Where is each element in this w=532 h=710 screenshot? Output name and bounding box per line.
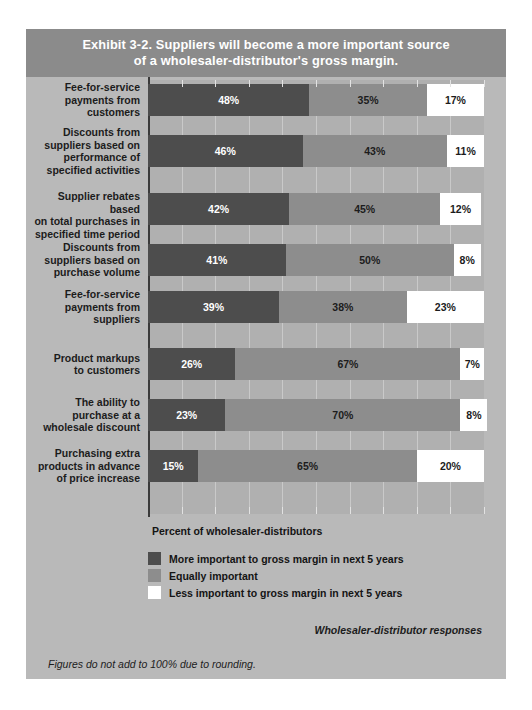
axis-tick-70 [383,507,384,514]
category-label-line: suppliers based on [28,254,140,267]
axis-tick-20 [215,80,216,87]
category-label-line: suppliers based on [28,139,140,152]
category-label-line: payments from [28,301,140,314]
axis-tick-10 [182,507,183,514]
category-label-line: Product markups [28,352,140,365]
bar-row: 23%70%8% [148,399,484,431]
bar-row: 26%67%7% [148,348,484,380]
axis-tick-30 [249,507,250,514]
bar-segment-less: 8% [460,399,487,431]
bar-segment-value: 17% [445,94,466,106]
bar-segment-more: 42% [148,193,289,225]
x-axis-caption: Percent of wholesaler-distributors [152,525,322,537]
axis-tick-50 [316,507,317,514]
axis-tick-20 [215,507,216,514]
bar-segment-value: 15% [163,460,184,472]
category-label-line: wholesale discount [28,421,140,434]
category-label: Discounts fromsuppliers based onpurchase… [28,241,140,279]
bar-segment-value: 8% [466,409,481,421]
bar-segment-less: 23% [407,291,484,323]
bar-segment-less: 17% [427,84,484,116]
bar-segment-less: 7% [460,348,484,380]
legend-swatch-equal [148,569,161,582]
category-label-line: purchase volume [28,266,140,279]
bar-row: 48%35%17% [148,84,484,116]
category-label-line: Discounts from [28,241,140,254]
bar-segment-more: 48% [148,84,309,116]
category-label-line: Fee-for-service [28,81,140,94]
axis-tick-50 [316,80,317,87]
axis-tick-80 [417,507,418,514]
bar-segment-less: 11% [447,135,484,167]
category-label-line: Purchasing extra [28,447,140,460]
category-label-line: performance of [28,151,140,164]
chart-legend: More important to gross margin in next 5… [148,551,506,602]
category-label-line: products in advance [28,460,140,473]
axis-tick-40 [282,507,283,514]
category-label: Supplier rebates basedon total purchases… [28,190,140,240]
bar-segment-value: 43% [364,145,385,157]
axis-tick-30 [249,80,250,87]
category-label-line: The ability to [28,396,140,409]
bar-row: 41%50%8% [148,244,484,276]
legend-label-less: Less important to gross margin in next 5… [169,587,402,599]
bar-segment-value: 65% [297,460,318,472]
bar-segment-equal: 65% [198,450,416,482]
bar-segment-less: 8% [454,244,481,276]
bar-segment-less: 12% [440,193,480,225]
axis-tick-100 [484,507,485,514]
axis-tick-80 [417,80,418,87]
category-label-line: Fee-for-service [28,288,140,301]
bar-row: 39%38%23% [148,291,484,323]
bar-segment-more: 41% [148,244,286,276]
category-label: Discounts fromsuppliers based onperforma… [28,126,140,176]
axis-tick-60 [350,507,351,514]
bar-segment-value: 12% [450,203,471,215]
category-label-line: Discounts from [28,126,140,139]
legend-item-more: More important to gross margin in next 5… [148,551,506,566]
bar-segment-value: 11% [455,145,475,157]
footnote: Figures do not add to 100% due to roundi… [48,658,256,670]
bar-rows: 48%35%17%46%43%11%42%45%12%41%50%8%39%38… [148,77,484,517]
bar-segment-more: 15% [148,450,198,482]
bar-segment-equal: 70% [225,399,460,431]
bar-segment-value: 46% [215,145,236,157]
category-label: Fee-for-servicepayments fromcustomers [28,81,140,119]
category-label-line: specified time period [28,228,140,241]
exhibit-card: Exhibit 3-2. Suppliers will become a mor… [26,29,506,679]
category-label-line: customers [28,106,140,119]
source-note: Wholesaler-distributor responses [315,624,482,636]
legend-swatch-less [148,586,161,599]
bar-row: 15%65%20% [148,450,484,482]
exhibit-title-band: Exhibit 3-2. Suppliers will become a mor… [26,29,506,77]
category-label-line: payments from [28,94,140,107]
axis-tick-100 [484,80,485,87]
bar-segment-value: 26% [181,358,202,370]
category-label-line: Supplier rebates based [28,190,140,215]
category-label: Product markupsto customers [28,352,140,377]
bar-segment-value: 48% [218,94,239,106]
bar-row: 42%45%12% [148,193,484,225]
exhibit-title-line-1: Exhibit 3-2. Suppliers will become a mor… [82,37,449,53]
category-label-line: specified activities [28,164,140,177]
axis-tick-60 [350,80,351,87]
bar-segment-equal: 35% [309,84,427,116]
exhibit-page: Exhibit 3-2. Suppliers will become a mor… [0,0,532,710]
bar-segment-value: 23% [435,301,456,313]
legend-item-equal: Equally important [148,568,506,583]
bar-segment-value: 20% [440,460,461,472]
bar-segment-value: 67% [337,358,358,370]
bar-segment-more: 23% [148,399,225,431]
exhibit-title-line-2: of a wholesaler-distributor's gross marg… [134,53,399,69]
category-label-line: purchase at a [28,409,140,422]
legend-label-equal: Equally important [169,570,258,582]
bar-segment-value: 38% [332,301,353,313]
bar-segment-equal: 38% [279,291,407,323]
stacked-bar-chart: Fee-for-servicepayments fromcustomersDis… [26,77,506,679]
legend-label-more: More important to gross margin in next 5… [169,553,404,565]
bar-segment-value: 35% [358,94,379,106]
bar-segment-value: 23% [176,409,197,421]
bar-segment-more: 39% [148,291,279,323]
axis-tick-10 [182,80,183,87]
category-label-line: of price increase [28,472,140,485]
